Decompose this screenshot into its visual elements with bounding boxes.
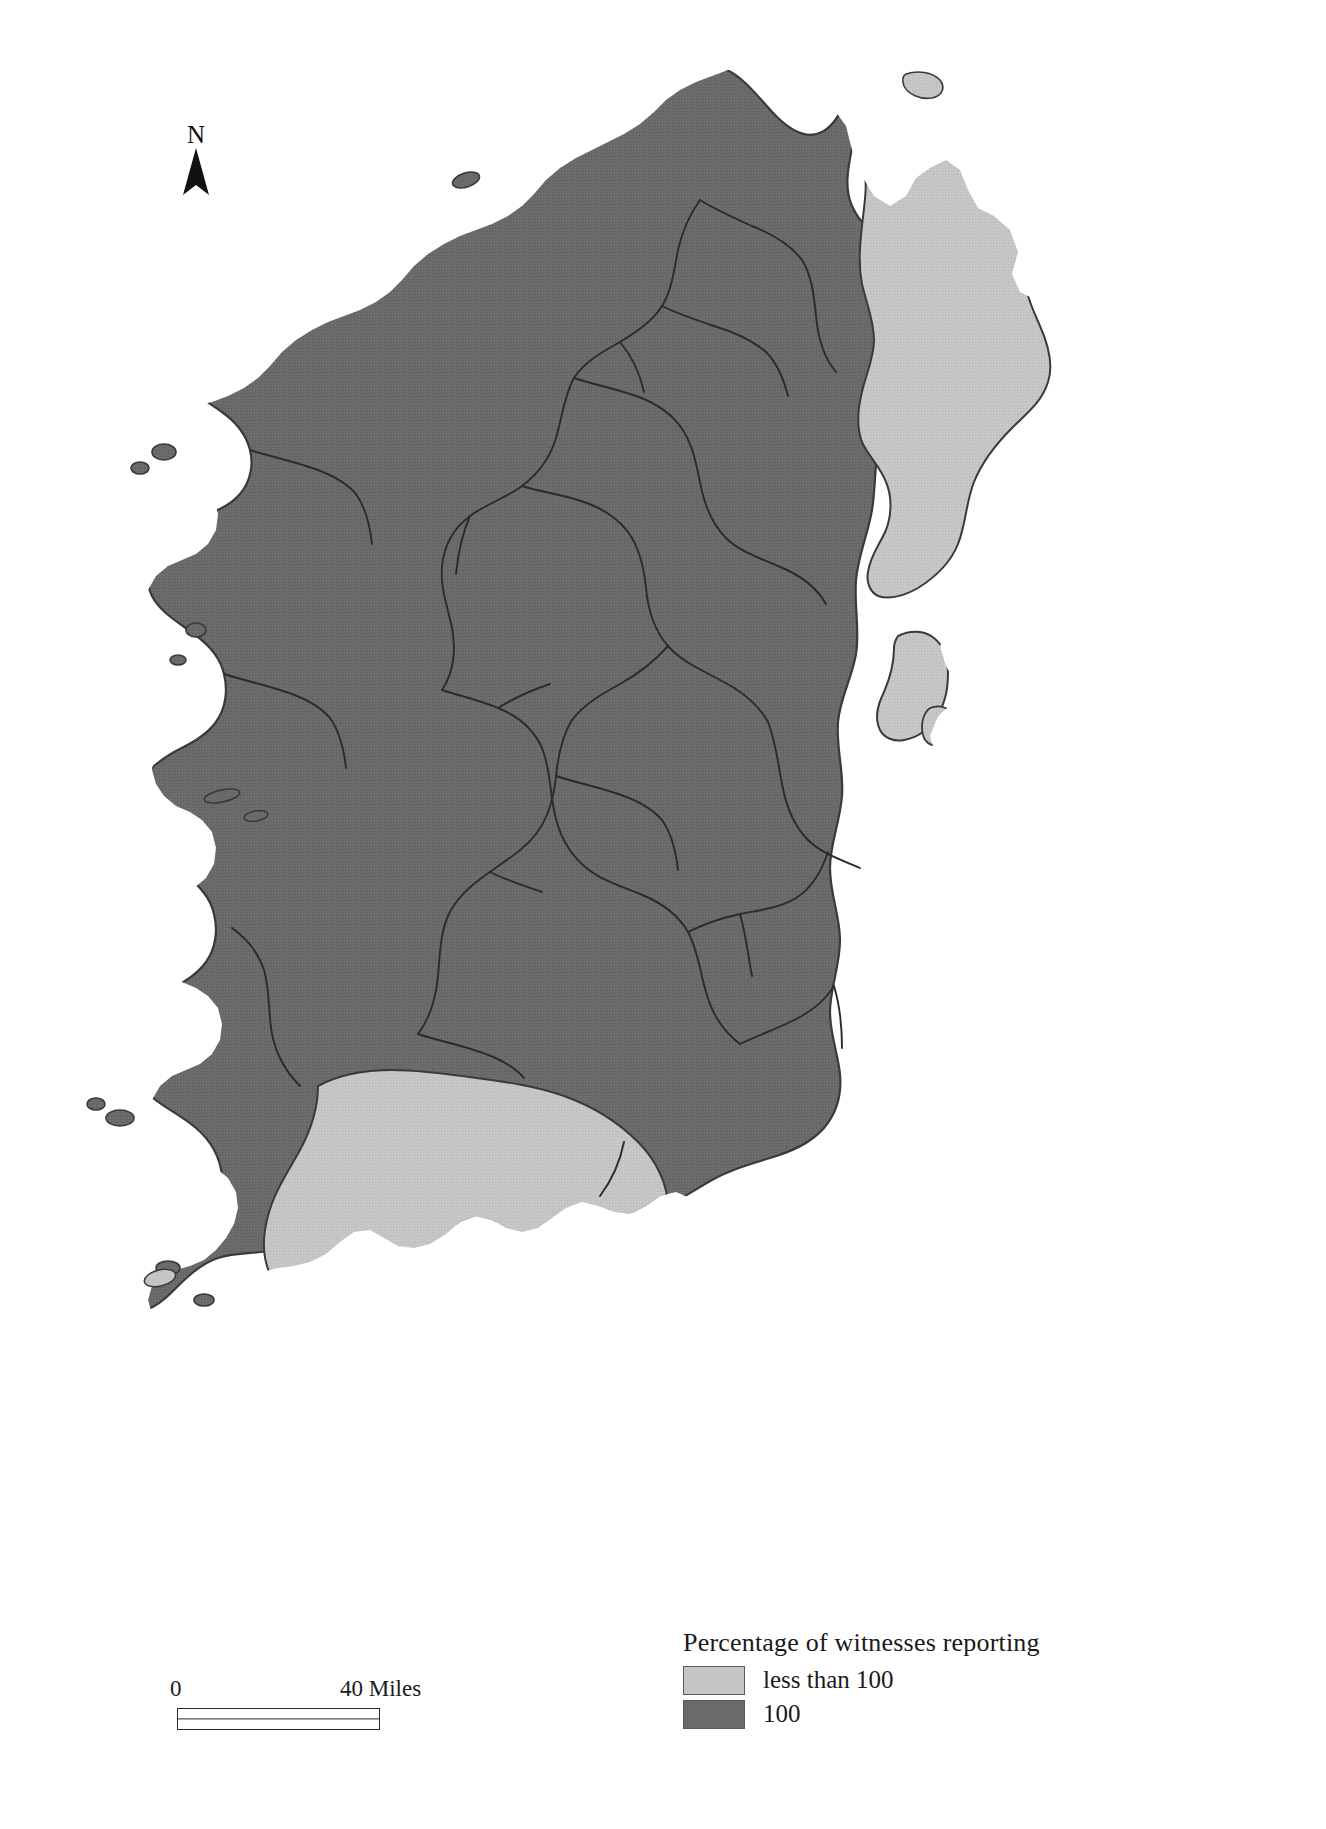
scale-bar-graphic (177, 1708, 380, 1730)
north-arrow: N (176, 122, 216, 194)
map-canvas[interactable] (0, 0, 1326, 1829)
ireland-choropleth-svg[interactable] (0, 0, 1326, 1829)
legend-item-less-than-100[interactable]: less than 100 (683, 1663, 1113, 1697)
scale-bar-min-label: 0 (170, 1676, 182, 1702)
scale-bar-max-label: 40 Miles (340, 1676, 421, 1702)
page-root: N 0 40 Miles Percentage of witnesses rep… (0, 0, 1326, 1829)
bottom-caption (0, 1816, 1326, 1829)
scale-bar-labels: 0 40 Miles (170, 1676, 430, 1702)
scale-bar: 0 40 Miles (170, 1676, 430, 1742)
north-arrow-icon (179, 147, 213, 197)
north-arrow-label: N (176, 122, 216, 147)
legend-label-less-than-100: less than 100 (763, 1665, 894, 1695)
legend-swatch-dark (683, 1700, 745, 1729)
legend-label-100: 100 (763, 1699, 801, 1729)
legend-title: Percentage of witnesses reporting (683, 1627, 1113, 1659)
legend: Percentage of witnesses reporting less t… (683, 1627, 1113, 1731)
legend-item-100[interactable]: 100 (683, 1697, 1113, 1731)
legend-swatch-light (683, 1666, 745, 1695)
